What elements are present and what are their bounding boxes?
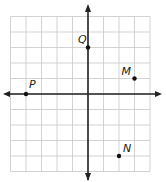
point-n-label: N <box>123 142 131 155</box>
point-m-label: M <box>122 65 132 78</box>
point-m-dot <box>132 76 136 80</box>
x-axis-right-arrow-icon <box>155 91 162 97</box>
plotted-points: PQMN <box>24 33 137 159</box>
coordinate-plane: PQMN <box>0 0 166 182</box>
point-q-label: Q <box>78 33 87 46</box>
y-axis-up-arrow-icon <box>85 4 91 12</box>
point-p-dot <box>24 92 28 96</box>
point-p-label: P <box>29 78 36 91</box>
y-axis-down-arrow-icon <box>85 173 91 181</box>
y-axis <box>85 4 91 181</box>
x-axis-left-arrow-icon <box>3 91 10 97</box>
point-n-dot <box>117 154 121 158</box>
point-q-dot <box>86 45 90 49</box>
